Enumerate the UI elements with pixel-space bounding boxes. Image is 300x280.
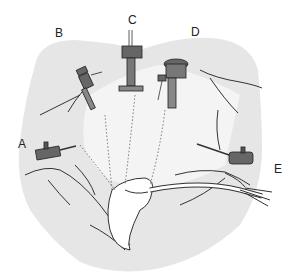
label-d: D [191,26,200,38]
illustration [0,0,300,280]
label-e: E [274,163,282,175]
label-c: C [128,14,137,26]
trocar-placement-figure: A B C D E [0,0,300,280]
label-a: A [18,138,26,150]
label-b: B [55,27,63,39]
